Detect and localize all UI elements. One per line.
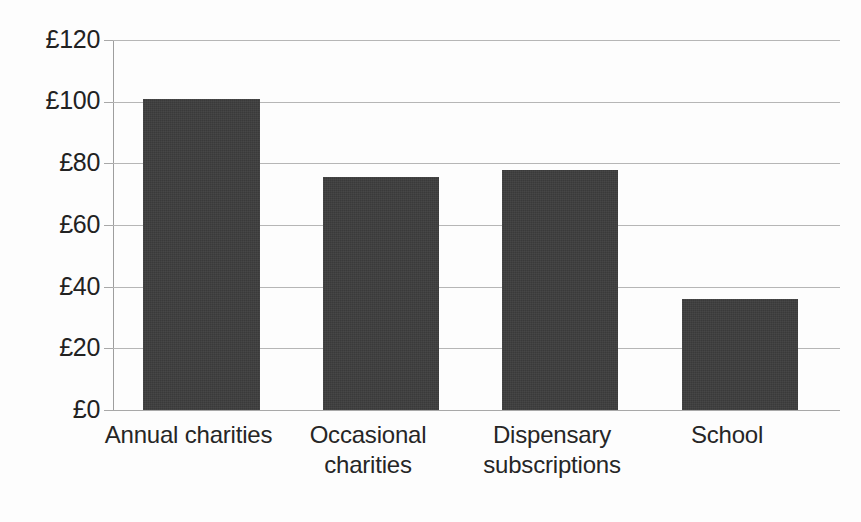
- gridline-baseline-0: [113, 410, 840, 411]
- x-axis-label-dispensary-subscriptions: Dispensary subscriptions: [440, 420, 664, 480]
- bar-chart: £120 £100 £80 £60 £40 £20 £0 Annual char…: [0, 0, 861, 522]
- x-axis-label-line: School: [637, 420, 817, 450]
- bar-school: [682, 299, 798, 410]
- y-axis-tick-label-40: £40: [5, 274, 100, 299]
- x-axis-label-line: Annual charities: [93, 420, 284, 450]
- x-axis-label-annual-charities: Annual charities: [93, 420, 284, 450]
- y-axis-tick-label-60: £60: [5, 212, 100, 237]
- x-axis-label-line: Dispensary: [440, 420, 664, 450]
- bar-occasional-charities: [323, 177, 439, 410]
- y-axis-tick-label-100: £100: [5, 88, 100, 113]
- plot-area: [113, 40, 840, 410]
- y-axis-tick-label-0: £0: [5, 397, 100, 422]
- x-axis-label-school: School: [637, 420, 817, 450]
- gridline-120: [113, 40, 840, 41]
- x-axis-label-line: subscriptions: [440, 450, 664, 480]
- y-axis-tick-label-20: £20: [5, 335, 100, 360]
- bar-dispensary-subscriptions: [502, 170, 618, 411]
- y-axis-tick-label-120: £120: [5, 27, 100, 52]
- y-axis-tick-label-80: £80: [5, 150, 100, 175]
- bar-annual-charities: [143, 99, 260, 410]
